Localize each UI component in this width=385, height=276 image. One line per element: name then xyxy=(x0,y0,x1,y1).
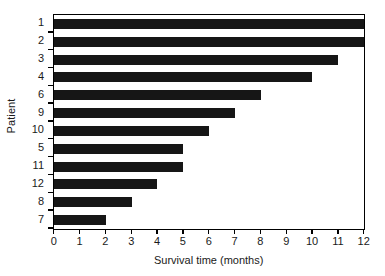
x-tick-label: 0 xyxy=(51,236,57,247)
x-axis-tick-mark xyxy=(156,229,157,234)
bar-row xyxy=(54,175,364,193)
bar xyxy=(54,19,364,29)
x-axis-tick-labels: 0123456789101112 xyxy=(53,236,364,250)
bar-row xyxy=(54,15,364,33)
bar xyxy=(54,215,106,225)
x-tick-label: 1 xyxy=(76,236,82,247)
x-axis-tick-mark xyxy=(234,229,235,234)
bar-row xyxy=(54,104,364,122)
bar-row xyxy=(54,140,364,158)
bar xyxy=(54,37,364,47)
x-axis-tick-mark xyxy=(79,229,80,234)
y-axis-title-label: Patient xyxy=(5,99,17,134)
x-tick-label: 9 xyxy=(283,236,289,247)
bar xyxy=(54,179,157,189)
x-tick-label: 11 xyxy=(332,236,343,247)
x-axis-title: Survival time (months) xyxy=(53,254,364,266)
bar-row xyxy=(54,211,364,229)
x-tick-label: 10 xyxy=(306,236,318,247)
x-tick-label: 12 xyxy=(358,236,370,247)
survival-time-bar-chart: Patient 1 2 3 4 6 9 10 5 11 12 8 7 01234… xyxy=(0,0,385,276)
y-tick-label: 8 xyxy=(22,192,47,210)
y-tick-label: 12 xyxy=(22,174,47,192)
x-axis-tick-mark xyxy=(208,229,209,234)
bar-row xyxy=(54,86,364,104)
x-axis-tick-mark xyxy=(182,229,183,234)
x-tick-label: 6 xyxy=(206,236,212,247)
bar xyxy=(54,72,312,82)
y-tick-label: 5 xyxy=(22,139,47,157)
x-tick-label: 4 xyxy=(154,236,160,247)
y-tick-label: 10 xyxy=(22,121,47,139)
y-tick-label: 6 xyxy=(22,85,47,103)
x-axis-tick-mark xyxy=(260,229,261,234)
x-axis-tick-mark xyxy=(53,229,54,234)
bar xyxy=(54,108,235,118)
plot-area xyxy=(53,14,365,230)
y-tick-label: 9 xyxy=(22,103,47,121)
x-tick-label: 3 xyxy=(128,236,134,247)
bar xyxy=(54,90,261,100)
x-axis-tick-mark xyxy=(337,229,338,234)
x-axis-tick-mark xyxy=(311,229,312,234)
bar xyxy=(54,55,338,65)
x-axis-tick-mark xyxy=(286,229,287,234)
bar xyxy=(54,144,183,154)
bar-row xyxy=(54,122,364,140)
x-axis-title-label: Survival time (months) xyxy=(154,254,263,266)
bar-row xyxy=(54,51,364,69)
bar-row xyxy=(54,33,364,51)
y-axis-title: Patient xyxy=(0,0,22,232)
x-axis-tick-mark xyxy=(131,229,132,234)
y-tick-label: 7 xyxy=(22,210,47,228)
y-tick-label: 1 xyxy=(22,14,47,32)
x-tick-label: 8 xyxy=(257,236,263,247)
y-tick-label: 2 xyxy=(22,32,47,50)
x-axis-tick-mark xyxy=(105,229,106,234)
x-tick-label: 5 xyxy=(180,236,186,247)
x-tick-label: 7 xyxy=(231,236,237,247)
bar xyxy=(54,162,183,172)
bar-row xyxy=(54,68,364,86)
bars-layer xyxy=(54,15,364,229)
x-tick-label: 2 xyxy=(102,236,108,247)
y-axis-tick-labels: 1 2 3 4 6 9 10 5 11 12 8 7 xyxy=(22,14,47,228)
bar-row xyxy=(54,193,364,211)
bar xyxy=(54,197,132,207)
y-tick-label: 4 xyxy=(22,67,47,85)
y-tick-label: 11 xyxy=(22,157,47,175)
y-tick-label: 3 xyxy=(22,50,47,68)
bar xyxy=(54,126,209,136)
bar-row xyxy=(54,158,364,176)
x-axis-tick-mark xyxy=(363,229,364,234)
